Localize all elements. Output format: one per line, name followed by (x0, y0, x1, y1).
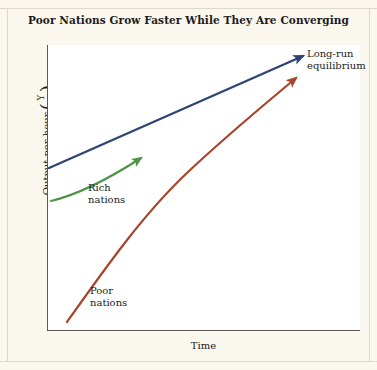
x-axis-label: Time (47, 340, 360, 351)
panel-bottom-rule (0, 361, 377, 362)
annotation-poor-nations: Poor nations (90, 285, 127, 309)
panel-top-rule (0, 8, 377, 9)
figure-container: Poor Nations Grow Faster While They Are … (0, 0, 377, 370)
chart-title: Poor Nations Grow Faster While They Are … (0, 14, 377, 26)
annotation-rich-nations: Rich nations (88, 182, 125, 206)
annotation-long-run-equilibrium: Long-run equilibrium (307, 48, 366, 72)
fraction-numerator: Y (37, 95, 46, 101)
panel-left-rule (7, 8, 8, 361)
series-long-run-equilibrium-line (49, 56, 303, 168)
panel-right-rule (369, 8, 370, 361)
